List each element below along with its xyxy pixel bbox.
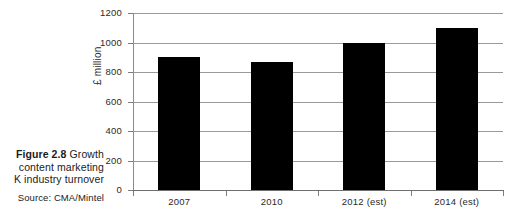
y-axis-tick-label: 200	[88, 155, 122, 166]
x-axis-tick-label: 2012 (est)	[319, 196, 409, 207]
y-axis-tick-label: 400	[88, 125, 122, 136]
y-axis-tick-label: 800	[88, 66, 122, 77]
x-axis-tick-label: 2007	[134, 196, 224, 207]
plot-area	[133, 13, 503, 190]
bar	[158, 57, 200, 190]
x-axis-tick-label: 2014 (est)	[412, 196, 502, 207]
bar	[343, 43, 385, 190]
bar-chart: £ million 020040060080010001200 20072010…	[0, 0, 516, 224]
x-axis-tick	[503, 191, 504, 196]
y-axis-tick-label: 600	[88, 96, 122, 107]
y-axis-tick-label: 0	[88, 184, 122, 195]
y-axis-tick-label: 1000	[88, 37, 122, 48]
bar	[436, 28, 478, 190]
x-axis-tick-label: 2010	[227, 196, 317, 207]
y-axis-tick-label: 1200	[88, 7, 122, 18]
bar	[251, 62, 293, 190]
